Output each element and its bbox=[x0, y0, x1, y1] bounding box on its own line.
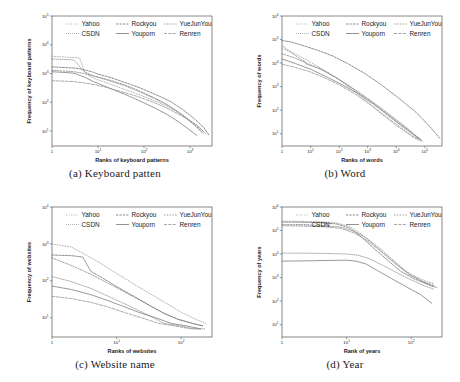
tick-label: 106 bbox=[272, 13, 279, 19]
y-axis-label: Frequency of keyboard patterns bbox=[26, 38, 32, 123]
legend-label-csdn: CSDN bbox=[82, 221, 100, 228]
chart-panel-a: 1101102103101102103104105Ranks of keyboa… bbox=[0, 0, 230, 191]
y-axis-label: Frequency of years bbox=[256, 246, 262, 297]
y-axis-label: Frequency of websites bbox=[26, 242, 32, 302]
tick-label: 104 bbox=[393, 148, 400, 154]
legend-label-yahoo: Yahoo bbox=[312, 211, 330, 218]
chart-panel-b: 1101102103104105101102103104105106Ranks … bbox=[230, 0, 460, 191]
chart-svg-a: 1101102103101102103104105Ranks of keyboa… bbox=[0, 0, 230, 191]
legend-label-yahoo: Yahoo bbox=[82, 20, 100, 27]
series-line-renren bbox=[282, 226, 433, 285]
tick-label: 1 bbox=[281, 340, 284, 345]
tick-label: 101 bbox=[42, 128, 49, 134]
series-line-rockyou bbox=[282, 41, 440, 139]
tick-label: 105 bbox=[272, 227, 279, 233]
tick-label: 103 bbox=[364, 148, 371, 154]
series-line-yahoo bbox=[52, 244, 206, 324]
tick-label: 1 bbox=[51, 149, 54, 154]
tick-label: 104 bbox=[42, 41, 49, 47]
chart-panel-c: 1101102101102103104Ranks of websitesFreq… bbox=[0, 191, 230, 382]
tick-label: 103 bbox=[272, 274, 279, 280]
legend-label-renren: Renren bbox=[180, 221, 201, 228]
figure-panel-grid: 1101102103101102103104105Ranks of keyboa… bbox=[0, 0, 460, 382]
series-line-renren bbox=[52, 296, 201, 329]
series-line-youporn bbox=[282, 260, 432, 303]
x-axis-label: Ranks of keyboard patterns bbox=[95, 157, 169, 163]
x-axis-label: Rank of years bbox=[344, 348, 381, 354]
chart-svg-d: 1101102101102103104105106Rank of yearsFr… bbox=[230, 191, 460, 382]
legend-label-rockyou: Rockyou bbox=[132, 211, 157, 219]
tick-label: 101 bbox=[113, 339, 120, 345]
tick-label: 104 bbox=[272, 60, 279, 66]
plot-a: 1101102103101102103104105Ranks of keyboa… bbox=[26, 13, 212, 163]
legend-label-yuejunyou: YueJunYou bbox=[180, 211, 213, 218]
tick-label: 104 bbox=[42, 204, 49, 210]
tick-label: 101 bbox=[307, 148, 314, 154]
series-line-csdn bbox=[52, 277, 205, 329]
series-line-youporn bbox=[52, 72, 197, 136]
legend-label-yuejunyou: YueJunYou bbox=[410, 20, 443, 27]
plot-d: 1101102101102103104105106Rank of yearsFr… bbox=[256, 204, 442, 354]
legend-label-yuejunyou: YueJunYou bbox=[410, 211, 443, 218]
tick-label: 103 bbox=[42, 70, 49, 76]
series-line-yahoo bbox=[282, 48, 418, 140]
series-line-yuejunyou bbox=[282, 225, 437, 288]
series-line-csdn bbox=[282, 46, 418, 139]
legend-label-yahoo: Yahoo bbox=[312, 20, 330, 27]
legend-label-yuejunyou: YueJunYou bbox=[180, 20, 213, 27]
series-line-rockyou bbox=[52, 67, 209, 136]
chart-svg-b: 1101102103104105101102103104105106Ranks … bbox=[230, 0, 460, 191]
tick-label: 101 bbox=[272, 321, 279, 327]
tick-label: 101 bbox=[343, 339, 350, 345]
tick-label: 102 bbox=[178, 339, 185, 345]
legend-label-youporn: Youporn bbox=[132, 30, 156, 38]
tick-label: 1 bbox=[51, 340, 54, 345]
tick-label: 102 bbox=[42, 99, 49, 105]
legend-label-renren: Renren bbox=[410, 221, 431, 228]
legend-label-youporn: Youporn bbox=[362, 30, 386, 38]
tick-label: 104 bbox=[272, 251, 279, 257]
plot-c: 1101102101102103104Ranks of websitesFreq… bbox=[26, 204, 212, 354]
series-line-yuejunyou bbox=[52, 258, 202, 326]
x-axis-label: Ranks of websites bbox=[108, 348, 157, 354]
tick-label: 103 bbox=[42, 241, 49, 247]
series-line-csdn bbox=[282, 253, 433, 289]
series-line-yuejunyou bbox=[52, 70, 202, 132]
tick-label: 101 bbox=[272, 130, 279, 136]
series-line-renren bbox=[282, 64, 421, 141]
tick-label: 106 bbox=[272, 204, 279, 210]
tick-label: 105 bbox=[272, 36, 279, 42]
tick-label: 102 bbox=[336, 148, 343, 154]
tick-label: 102 bbox=[272, 107, 279, 113]
series-line-yahoo bbox=[282, 221, 435, 284]
tick-label: 105 bbox=[42, 13, 49, 19]
caption-c: (c) Website name bbox=[0, 358, 230, 370]
legend-label-rockyou: Rockyou bbox=[132, 20, 157, 28]
chart-svg-c: 1101102101102103104Ranks of websitesFreq… bbox=[0, 191, 230, 382]
plot-b: 1101102103104105101102103104105106Ranks … bbox=[256, 13, 442, 163]
tick-label: 1 bbox=[281, 149, 284, 154]
legend-label-rockyou: Rockyou bbox=[362, 211, 387, 219]
y-axis-label: Frequency of words bbox=[256, 54, 262, 107]
legend-label-renren: Renren bbox=[410, 30, 431, 37]
x-axis-label: Ranks of words bbox=[341, 157, 383, 163]
caption-b: (b) Word bbox=[230, 167, 460, 179]
legend-label-youporn: Youporn bbox=[362, 221, 386, 229]
tick-label: 102 bbox=[408, 339, 415, 345]
tick-label: 101 bbox=[42, 314, 49, 320]
tick-label: 103 bbox=[272, 83, 279, 89]
tick-label: 103 bbox=[187, 148, 194, 154]
tick-label: 102 bbox=[42, 277, 49, 283]
caption-a: (a) Keyboard patten bbox=[0, 167, 230, 179]
tick-label: 101 bbox=[95, 148, 102, 154]
chart-panel-d: 1101102101102103104105106Rank of yearsFr… bbox=[230, 191, 460, 382]
legend-label-csdn: CSDN bbox=[82, 30, 100, 37]
legend-label-youporn: Youporn bbox=[132, 221, 156, 229]
legend-label-yahoo: Yahoo bbox=[82, 211, 100, 218]
legend-label-csdn: CSDN bbox=[312, 221, 330, 228]
tick-label: 105 bbox=[421, 148, 428, 154]
tick-label: 102 bbox=[141, 148, 148, 154]
tick-label: 102 bbox=[272, 298, 279, 304]
legend-label-renren: Renren bbox=[180, 30, 201, 37]
legend-label-csdn: CSDN bbox=[312, 30, 330, 37]
